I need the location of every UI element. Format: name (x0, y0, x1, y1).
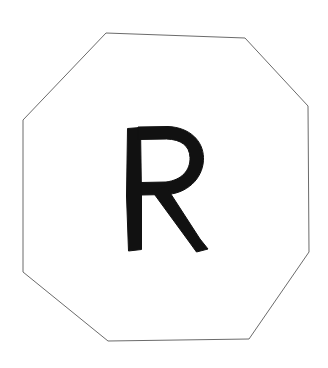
image-canvas: Letter R in an octagon A thin-lined octa… (0, 0, 328, 368)
letter-r-stem (127, 128, 142, 252)
octagon-letter-figure: Letter R in an octagon A thin-lined octa… (0, 0, 328, 368)
